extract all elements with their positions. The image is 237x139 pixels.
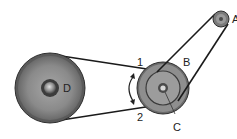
pulley-c [146,71,180,105]
label-a: A [232,13,237,25]
pulley-a [213,11,229,27]
label-c: C [173,121,181,133]
label-d: D [63,82,71,94]
label-span-1: 1 [137,56,143,68]
label-span-2: 2 [137,111,143,123]
label-b: B [183,56,190,68]
pulley-d [15,53,85,123]
pulley-diagram: D A 1 B 2 C [0,0,237,139]
rotation-arrow-icon [129,73,135,105]
